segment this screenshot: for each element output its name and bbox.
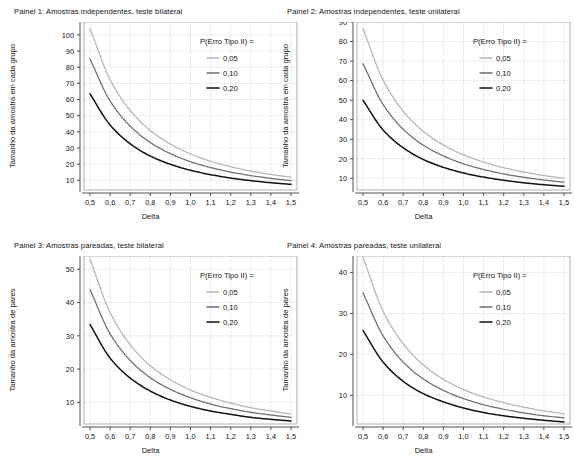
x-tick-label: 0,9 xyxy=(165,198,175,207)
x-tick-label: 1,1 xyxy=(478,432,488,441)
y-tick-label: 90 xyxy=(66,47,74,56)
x-tick-label: 1,2 xyxy=(499,198,509,207)
y-tick-label: 50 xyxy=(66,265,74,274)
x-tick-label: 0,8 xyxy=(145,198,155,207)
x-tick-label: 1,3 xyxy=(246,198,256,207)
y-tick-label: 40 xyxy=(339,115,347,124)
y-tick-label: 10 xyxy=(339,391,347,400)
x-tick-label: 0,6 xyxy=(378,198,388,207)
gridlines xyxy=(84,256,297,424)
y-tick-label: 80 xyxy=(339,37,347,46)
plot-area: 0,50,60,70,80,91,01,11,21,31,41,51020304… xyxy=(44,22,257,190)
y-tick-label: 70 xyxy=(339,57,347,66)
y-tick-label: 100 xyxy=(62,31,74,40)
chart-panel-2: Painel 2: Amostras independentes, teste … xyxy=(273,0,546,234)
x-tick-label: 0,6 xyxy=(378,432,388,441)
y-tick-label: 50 xyxy=(66,111,74,120)
legend-label-1: 0,05 xyxy=(223,54,238,63)
y-tick-label: 10 xyxy=(339,174,347,183)
y-axis-label: Tamanho da amostra de pares xyxy=(8,256,22,424)
y-tick-label: 20 xyxy=(66,365,74,374)
plot-area: 0,50,60,70,80,91,01,11,21,31,41,51020304… xyxy=(44,256,257,424)
legend-label-3: 0,20 xyxy=(223,318,238,327)
x-tick-label: 1,2 xyxy=(226,432,236,441)
y-tick-label: 60 xyxy=(66,95,74,104)
y-tick-label: 30 xyxy=(66,332,74,341)
x-tick-label: 0,8 xyxy=(418,198,428,207)
y-tick-label: 80 xyxy=(66,63,74,72)
y-tick-label: 20 xyxy=(66,160,74,169)
x-tick-label: 0,5 xyxy=(85,432,95,441)
plot-area: 0,50,60,70,80,91,01,11,21,31,41,51020304… xyxy=(317,22,530,190)
y-tick-label: 70 xyxy=(66,79,74,88)
panel-title: Painel 2: Amostras independentes, teste … xyxy=(287,7,460,16)
legend-title: P(Erro Tipo II) = xyxy=(473,271,527,280)
legend: P(Erro Tipo II) =0,050,100,20 xyxy=(473,37,527,93)
legend-label-3: 0,20 xyxy=(223,84,238,93)
panel-title: Painel 4: Amostras pareadas, teste unila… xyxy=(287,241,441,250)
x-tick-label: 0,8 xyxy=(418,432,428,441)
y-tick-label: 30 xyxy=(339,309,347,318)
x-tick-label: 0,9 xyxy=(438,432,448,441)
x-tick-label: 0,8 xyxy=(145,432,155,441)
legend-label-2: 0,10 xyxy=(223,303,238,312)
y-tick-label: 40 xyxy=(339,268,347,277)
legend-label-1: 0,05 xyxy=(496,54,511,63)
panel-title: Painel 3: Amostras pareadas, teste bilat… xyxy=(14,241,164,250)
y-tick-label: 10 xyxy=(66,398,74,407)
panel-title: Painel 1: Amostras independentes, teste … xyxy=(14,7,182,16)
y-axis-label: Tamanho da amostra em cada grupo xyxy=(281,22,295,190)
x-tick-label: 1,1 xyxy=(205,432,215,441)
x-tick-label: 1,5 xyxy=(559,432,569,441)
x-tick-label: 0,5 xyxy=(85,198,95,207)
x-tick-label: 1,0 xyxy=(458,432,468,441)
legend-label-2: 0,10 xyxy=(496,69,511,78)
x-tick-label: 1,1 xyxy=(478,198,488,207)
legend: P(Erro Tipo II) =0,050,100,20 xyxy=(473,271,527,327)
axes: 0,50,60,70,80,91,01,11,21,31,41,51020304… xyxy=(66,256,299,441)
x-tick-label: 0,9 xyxy=(438,198,448,207)
legend: P(Erro Tipo II) =0,050,100,20 xyxy=(200,271,254,327)
x-tick-label: 1,3 xyxy=(246,432,256,441)
legend-label-3: 0,20 xyxy=(496,318,511,327)
legend-label-2: 0,10 xyxy=(223,69,238,78)
y-tick-label: 30 xyxy=(66,144,74,153)
x-tick-label: 1,5 xyxy=(559,198,569,207)
legend-title: P(Erro Tipo II) = xyxy=(473,37,527,46)
x-tick-label: 1,4 xyxy=(539,198,549,207)
chart-panel-4: Painel 4: Amostras pareadas, teste unila… xyxy=(273,234,546,468)
plot-area: 0,50,60,70,80,91,01,11,21,31,41,51020304… xyxy=(317,256,530,424)
chart-panel-3: Painel 3: Amostras pareadas, teste bilat… xyxy=(0,234,273,468)
x-tick-label: 0,5 xyxy=(358,198,368,207)
y-axis-label: Tamanho da amostra de pares xyxy=(281,256,295,424)
y-tick-label: 40 xyxy=(66,128,74,137)
y-tick-label: 20 xyxy=(339,155,347,164)
x-tick-label: 1,3 xyxy=(519,198,529,207)
x-tick-label: 0,6 xyxy=(105,198,115,207)
chart-panel-1: Painel 1: Amostras independentes, teste … xyxy=(0,0,273,234)
x-tick-label: 0,7 xyxy=(398,198,408,207)
x-tick-label: 1,0 xyxy=(185,198,195,207)
x-tick-label: 0,5 xyxy=(358,432,368,441)
legend: P(Erro Tipo II) =0,050,100,20 xyxy=(200,37,254,93)
gridlines xyxy=(84,22,297,190)
legend-title: P(Erro Tipo II) = xyxy=(200,271,254,280)
x-tick-label: 1,0 xyxy=(458,198,468,207)
y-tick-label: 10 xyxy=(66,176,74,185)
x-tick-label: 1,4 xyxy=(539,432,549,441)
x-tick-label: 0,6 xyxy=(105,432,115,441)
x-tick-label: 0,7 xyxy=(125,198,135,207)
y-tick-label: 20 xyxy=(339,350,347,359)
y-tick-label: 50 xyxy=(339,96,347,105)
legend-label-3: 0,20 xyxy=(496,84,511,93)
y-tick-label: 90 xyxy=(339,22,347,27)
legend-label-1: 0,05 xyxy=(223,288,238,297)
x-tick-label: 0,7 xyxy=(398,432,408,441)
y-tick-label: 60 xyxy=(339,76,347,85)
x-tick-label: 1,2 xyxy=(226,198,236,207)
x-tick-label: 0,9 xyxy=(165,432,175,441)
y-tick-label: 40 xyxy=(66,298,74,307)
x-tick-label: 1,1 xyxy=(205,198,215,207)
legend-label-1: 0,05 xyxy=(496,288,511,297)
